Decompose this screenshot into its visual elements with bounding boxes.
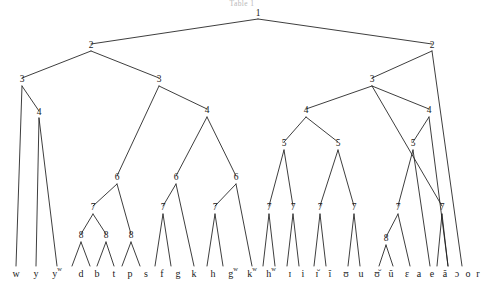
tree-node-n7g: 7 [352,202,357,212]
tree-edge [306,86,372,109]
leaf-base: k [192,268,197,279]
tree-leaf-label: a [417,268,422,279]
leaf-superscript: w [271,265,276,272]
leaf-base: f [160,268,164,279]
tree-edge [338,150,354,206]
tree-edge [207,214,215,266]
tree-edge [176,184,194,266]
tree-edge [22,51,91,78]
tree-edge [122,242,131,266]
tree-node-n7b: 7 [161,202,166,212]
tree-node-n4d: 4 [427,105,432,115]
leaf-superscript: w [57,265,62,272]
tree-edge [372,51,432,78]
leaf-base: ɛ [405,268,409,279]
tree-leaf-label: kw [247,265,257,280]
tree-node-n3b: 3 [157,74,162,84]
tree-edge [293,214,299,266]
leaf-superscript: w [252,265,257,272]
tree-node-n6b: 6 [174,172,179,182]
tree-node-n5b: 5 [336,138,341,148]
tree-leaf-label: t [113,268,116,279]
tree-leaf-label: w [12,268,20,279]
tree-edge [306,117,338,142]
tree-edge [16,86,22,266]
tree-edge [398,150,413,206]
tree-leaf-label: ĭ [329,268,332,279]
leaf-base: g [176,268,181,279]
tree-node-n7a: 7 [91,202,96,212]
tree-node-n2L: 2 [89,40,94,50]
tree-node-n8c: 8 [129,230,134,240]
tree-node-n5c: 5 [411,138,416,148]
figure-root: Table 1 12233344445556667777777778888 wy… [0,0,484,294]
leaf-base: ă [443,268,448,279]
tree-edge [413,117,429,142]
tree-leaf-label: ʊ [343,268,349,279]
tree-edge [163,214,171,266]
tree-edge [72,242,81,266]
leaf-base: ʊ̆ [374,268,381,279]
leaf-base: b [95,268,100,279]
tree-node-n7h: 7 [396,202,401,212]
tree-leaf-label: r [476,268,480,279]
tree-node-n6c: 6 [234,172,239,182]
leaf-base: h [211,268,216,279]
tree-edge [269,214,275,266]
tree-leaf-label: k [192,268,197,279]
tree-node-n1: 1 [256,8,261,18]
leaf-base: r [476,268,480,279]
tree-edge [413,150,430,266]
tree-edge [442,214,448,266]
leaf-base: a [417,268,422,279]
tree-leaf-label: g [176,268,181,279]
tree-edges-layer [16,19,462,266]
tree-edge [236,184,252,266]
leaf-base: w [12,268,20,279]
tree-node-n8b: 8 [104,230,109,240]
tree-edge [386,245,393,266]
leaf-base: p [128,268,133,279]
tree-leaf-label: i [302,268,305,279]
tree-node-n8a: 8 [79,230,84,240]
tree-leaf-label: gw [228,265,238,280]
tree-node-n2R: 2 [430,40,435,50]
tree-edge [91,19,258,44]
tree-node-n7i: 7 [440,202,445,212]
tree-edge [91,51,159,78]
tree-leaf-label: b [95,268,100,279]
tree-leaf-label: u [359,268,364,279]
tree-leaf-label: ɪ̆ [316,268,321,279]
leaf-base: ĭ [329,268,332,279]
leaf-base: y [34,268,39,279]
tree-leaf-label: o [466,268,471,279]
tree-edge [215,184,236,206]
leaf-base: ɪ̆ [316,268,321,279]
tree-edge [36,118,39,266]
tree-node-n7d: 7 [267,202,272,212]
tree-edge [437,214,442,266]
tree-edge [131,242,140,266]
hierarchical-tree-diagram: 12233344445556667777777778888 wyywdbtpsf… [0,0,484,294]
leaf-base: t [113,268,116,279]
leaf-base: u [359,268,364,279]
tree-leaf-label: ɛ [405,268,409,279]
tree-leaf-label: e [430,268,435,279]
tree-edge [159,86,207,109]
tree-edge [314,214,320,266]
tree-node-n6a: 6 [115,172,120,182]
tree-edge [354,214,360,266]
tree-edge [398,214,410,266]
leaf-base: i [302,268,305,279]
tree-leaf-label: y [34,268,39,279]
tree-node-n8d: 8 [384,233,389,243]
tree-edge [176,117,207,176]
tree-leaf-label: p [128,268,133,279]
tree-edge [372,86,442,206]
tree-node-n7f: 7 [318,202,323,212]
tree-edge [379,245,386,266]
leaf-base: o [466,268,471,279]
tree-node-n4c: 4 [304,105,309,115]
tree-node-n3c: 3 [370,74,375,84]
tree-edge [215,214,223,266]
